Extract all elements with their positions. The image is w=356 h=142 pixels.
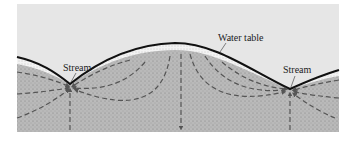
stream-left-label: Stream <box>63 62 92 73</box>
stream-right-label: Stream <box>283 64 312 75</box>
groundwater-diagram: Stream Water table Stream <box>0 0 356 142</box>
water-table-label: Water table <box>218 32 264 43</box>
